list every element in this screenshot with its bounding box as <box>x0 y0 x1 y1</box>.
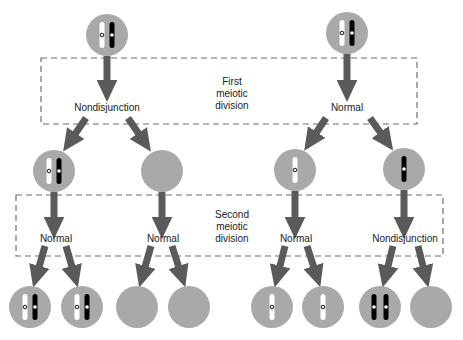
cell-circle-icon <box>116 286 158 328</box>
arrow-down-left-icon <box>278 246 285 274</box>
cell <box>326 12 368 54</box>
cell-circle-icon <box>168 286 210 328</box>
cell <box>33 150 75 192</box>
centromere-icon <box>100 33 104 37</box>
centromere-icon <box>110 33 114 37</box>
centromere-icon <box>47 169 51 173</box>
arrow-down-right-icon <box>418 246 425 274</box>
first-division-label-line1: First <box>222 76 242 87</box>
centromere-icon <box>293 168 297 172</box>
cell <box>251 286 293 328</box>
centromere-icon <box>75 305 79 309</box>
cell-circle-icon <box>410 286 452 328</box>
cell <box>86 14 128 56</box>
centromere-icon <box>85 305 89 309</box>
cell-circle-icon <box>61 286 103 328</box>
arrow-down-right-icon <box>128 118 143 140</box>
cells <box>9 12 452 328</box>
centromere-icon <box>384 305 388 309</box>
outcome-label-normal: Normal <box>40 233 72 244</box>
arrow-down-right-icon <box>370 118 385 139</box>
cell-circle-icon <box>9 286 51 328</box>
second-division-label-line2: meiotic <box>216 221 248 232</box>
arrow-down-right-icon <box>66 246 74 274</box>
outcome-label-normal: Normal <box>147 233 179 244</box>
centromere-icon <box>57 169 61 173</box>
second-division-label-line3: division <box>215 233 248 244</box>
centromere-icon <box>33 305 37 309</box>
first-division-label-line2: meiotic <box>216 88 248 99</box>
centromere-icon <box>340 31 344 35</box>
second-division-label-line1: Second <box>215 209 249 220</box>
outcome-label-normal: Normal <box>331 102 363 113</box>
cell <box>116 286 158 328</box>
cell <box>9 286 51 328</box>
cell-circle-icon <box>326 12 368 54</box>
arrow-down-right-icon <box>172 246 181 274</box>
cell <box>141 150 183 192</box>
first-division-label-line3: division <box>215 100 248 111</box>
outcome-label-nondisjunction: Nondisjunction <box>372 233 438 244</box>
cell-circle-icon <box>141 150 183 192</box>
cell <box>359 286 401 328</box>
centromere-icon <box>270 305 274 309</box>
cell <box>410 286 452 328</box>
cell-circle-icon <box>33 150 75 192</box>
arrow-down-left-icon <box>312 118 326 139</box>
cell <box>274 149 316 191</box>
cell <box>61 286 103 328</box>
centromere-icon <box>372 305 376 309</box>
centromere-icon <box>321 305 325 309</box>
cell-circle-icon <box>86 14 128 56</box>
cell-circle-icon <box>359 286 401 328</box>
outcome-label-normal: Normal <box>280 233 312 244</box>
cell <box>168 286 210 328</box>
arrow-down-left-icon <box>71 118 86 140</box>
meiosis-nondisjunction-diagram: First meiotic division Nondisjunction No… <box>0 0 463 340</box>
outcome-label-nondisjunction: Nondisjunction <box>74 102 140 113</box>
cell <box>383 148 425 190</box>
centromere-icon <box>350 31 354 35</box>
centromere-icon <box>23 305 27 309</box>
arrow-down-left-icon <box>386 246 393 274</box>
arrow-down-right-icon <box>307 246 316 274</box>
arrow-down-left-icon <box>37 246 45 274</box>
arrow-down-left-icon <box>143 246 151 274</box>
cell <box>302 286 344 328</box>
centromere-icon <box>402 167 406 171</box>
